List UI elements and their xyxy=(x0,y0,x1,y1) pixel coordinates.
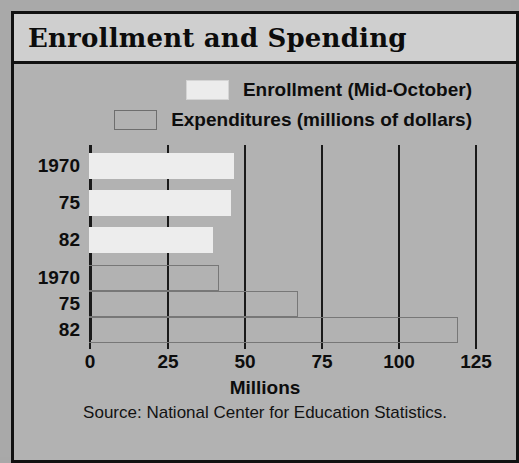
chart-body: Enrollment (Mid-October) Expenditures (m… xyxy=(14,67,516,460)
bar-expenditures-82 xyxy=(89,317,458,343)
bar-enrollment-1970 xyxy=(89,153,234,179)
enrollment-swatch-icon xyxy=(186,80,229,100)
bar-row-enrollment-1970: 1970 xyxy=(89,153,489,179)
xtick-label-75: 75 xyxy=(311,351,332,373)
bar-enrollment-82 xyxy=(89,227,213,253)
title-band: Enrollment and Spending xyxy=(14,14,516,64)
xtick-label-100: 100 xyxy=(383,351,415,373)
bar-row-expenditures-82: 82 xyxy=(89,317,489,343)
plot-area: 1970 75 82 1970 75 82 xyxy=(14,145,516,383)
row-label-enrollment-82: 82 xyxy=(59,229,80,251)
xtick-label-0: 0 xyxy=(85,351,96,373)
legend-item-enrollment: Enrollment (Mid-October) xyxy=(14,75,494,105)
xtick-label-125: 125 xyxy=(460,351,492,373)
bar-expenditures-1970 xyxy=(89,265,219,291)
bar-row-expenditures-1970: 1970 xyxy=(89,265,489,291)
row-label-expenditures-82: 82 xyxy=(59,319,80,341)
legend-label-expenditures: Expenditures (millions of dollars) xyxy=(171,109,472,131)
row-label-expenditures-1970: 1970 xyxy=(38,267,80,289)
xtick-label-50: 50 xyxy=(234,351,255,373)
bar-enrollment-75 xyxy=(89,190,231,216)
row-label-enrollment-75: 75 xyxy=(59,192,80,214)
expenditures-swatch-icon xyxy=(114,110,157,130)
chart-title: Enrollment and Spending xyxy=(14,23,407,53)
xtick-label-25: 25 xyxy=(157,351,178,373)
chart-legend: Enrollment (Mid-October) Expenditures (m… xyxy=(14,75,494,135)
bar-expenditures-75 xyxy=(89,291,298,317)
x-axis-caption: Millions xyxy=(14,377,516,399)
bar-row-enrollment-82: 82 xyxy=(89,227,489,253)
source-note: Source: National Center for Education St… xyxy=(14,403,516,423)
bar-row-expenditures-75: 75 xyxy=(89,291,489,317)
legend-label-enrollment: Enrollment (Mid-October) xyxy=(243,79,472,101)
bar-row-enrollment-75: 75 xyxy=(89,190,489,216)
row-label-enrollment-1970: 1970 xyxy=(38,155,80,177)
legend-item-expenditures: Expenditures (millions of dollars) xyxy=(14,105,494,135)
row-label-expenditures-75: 75 xyxy=(59,293,80,315)
